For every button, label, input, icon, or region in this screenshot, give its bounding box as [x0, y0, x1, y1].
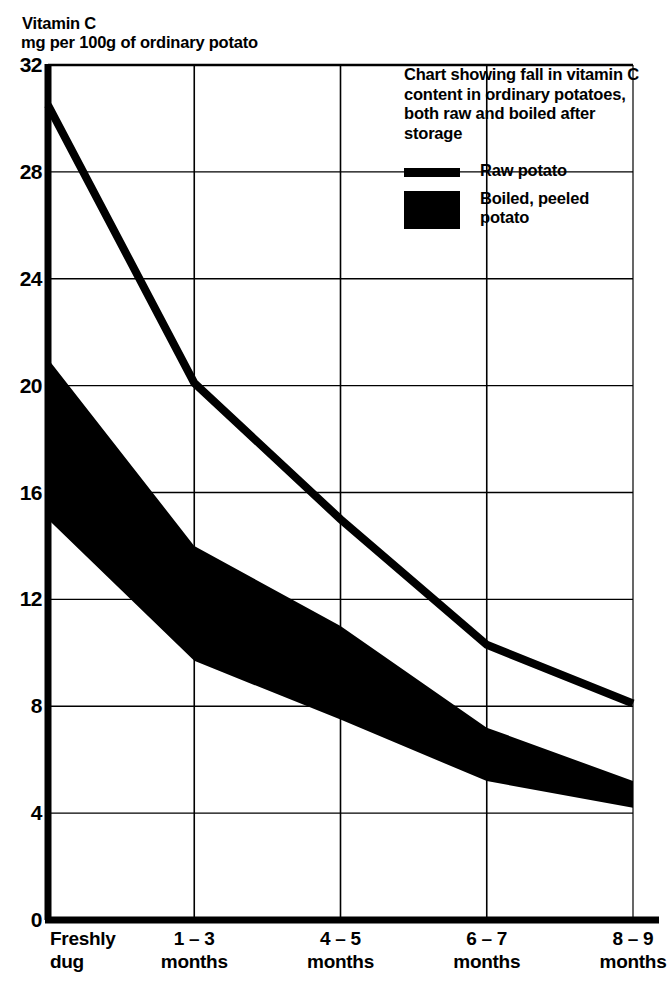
x-tick-label-2: 4 – 5 months	[271, 927, 411, 973]
legend-swatch-cell-raw	[404, 161, 480, 177]
y-tick-label-8: 8	[2, 695, 42, 716]
legend-item-raw-potato: Raw potato	[404, 161, 642, 181]
legend: Chart showing fall in vitamin C content …	[390, 57, 642, 229]
y-tick-label-12: 12	[2, 588, 42, 609]
legend-item-boiled-peeled-potato: Boiled, peeled potato	[404, 189, 642, 229]
y-tick-label-4: 4	[2, 802, 42, 823]
x-tick-label-1: 1 – 3 months	[124, 927, 264, 973]
x-tick-label-3: 6 – 7 months	[417, 927, 557, 973]
line-swatch-icon	[404, 168, 460, 177]
x-tick-label-4: 8 – 9 months	[563, 927, 671, 973]
y-tick-label-32: 32	[2, 54, 42, 75]
y-tick-label-0: 0	[2, 909, 42, 930]
legend-label-boiled-peeled-potato: Boiled, peeled potato	[480, 189, 589, 228]
legend-description: Chart showing fall in vitamin C content …	[404, 65, 642, 143]
legend-label-raw-potato: Raw potato	[480, 161, 567, 181]
area-swatch-icon	[404, 191, 460, 229]
y-tick-label-16: 16	[2, 482, 42, 503]
y-tick-label-28: 28	[2, 161, 42, 182]
legend-swatch-cell-boiled	[404, 189, 480, 229]
y-tick-label-24: 24	[2, 268, 42, 289]
y-tick-label-20: 20	[2, 375, 42, 396]
